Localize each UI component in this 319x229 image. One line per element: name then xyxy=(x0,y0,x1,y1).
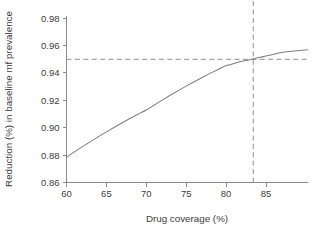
y-tick-label-3: 0.92 xyxy=(41,95,60,106)
x-tick-label-5: 85 xyxy=(261,188,272,199)
x-tick-label-2: 70 xyxy=(141,188,152,199)
y-tick-label-6: 0.98 xyxy=(41,13,60,24)
x-tick-label-3: 75 xyxy=(181,188,192,199)
y-tick-label-5: 0.96 xyxy=(41,40,60,51)
x-tick-label-0: 60 xyxy=(61,188,72,199)
y-tick-label-1: 0.88 xyxy=(41,150,60,161)
x-axis-title: Drug coverage (%) xyxy=(146,213,228,224)
chart-canvas: 0.860.880.900.920.940.960.98 60657075808… xyxy=(0,0,319,229)
chart-figure: 0.860.880.900.920.940.960.98 60657075808… xyxy=(0,0,319,229)
y-tick-label-2: 0.90 xyxy=(41,122,60,133)
x-tick-label-4: 80 xyxy=(221,188,232,199)
x-tick-label-1: 65 xyxy=(101,188,112,199)
y-tick-label-0: 0.86 xyxy=(41,177,60,188)
y-tick-label-4: 0.94 xyxy=(41,67,60,78)
y-axis-title: Reduction (%) in baseline mf prevalence xyxy=(3,11,14,187)
